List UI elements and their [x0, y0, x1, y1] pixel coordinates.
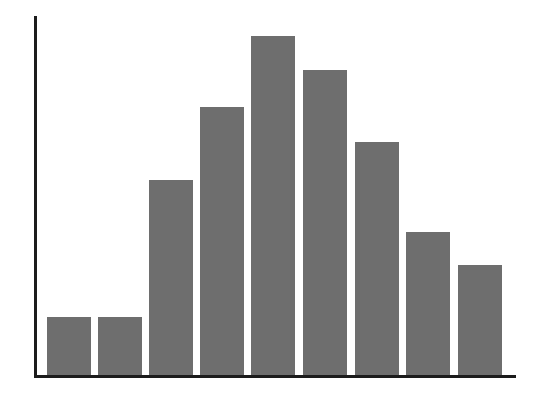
plot-area	[35, 16, 515, 376]
bar-2	[98, 317, 142, 376]
bar-8	[406, 232, 450, 376]
bar-9	[458, 265, 502, 376]
bar-1	[47, 317, 91, 376]
bar-chart-figure	[0, 0, 544, 394]
bar-5	[251, 36, 295, 376]
bars-layer	[35, 16, 515, 376]
bar-3	[149, 180, 193, 376]
bar-4	[200, 107, 244, 376]
bar-6	[303, 70, 347, 376]
bar-7	[355, 142, 399, 376]
x-axis-line	[34, 375, 516, 378]
